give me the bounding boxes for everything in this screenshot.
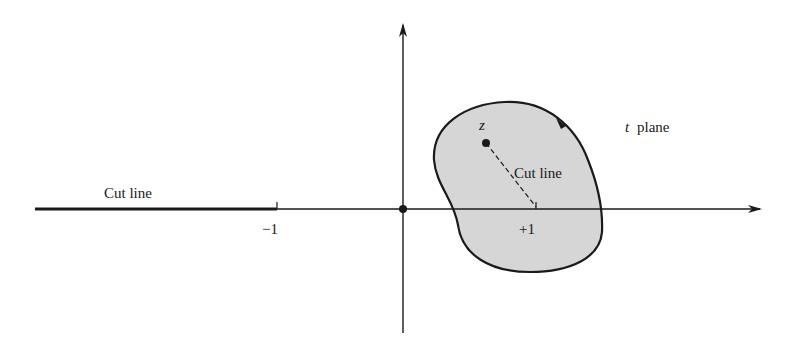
contour-region <box>434 102 602 272</box>
minus-one-label: −1 <box>262 221 278 237</box>
origin-point <box>399 205 407 213</box>
plus-one-label: +1 <box>519 221 535 237</box>
point-z-label: z <box>478 117 485 133</box>
t-plane-diagram: Cut line −1 +1 z Cut line t plane <box>0 0 790 345</box>
cut-line-left-label: Cut line <box>104 185 152 201</box>
plane-text-label: plane <box>637 119 670 135</box>
plane-variable-label: t <box>625 119 630 135</box>
inner-cut-line-label: Cut line <box>514 165 562 181</box>
